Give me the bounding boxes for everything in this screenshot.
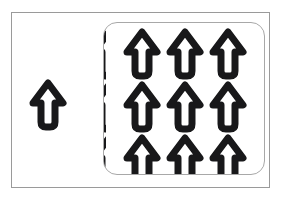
grid-arrow [123, 81, 161, 133]
grouped-arrows-region [103, 22, 265, 175]
grid-arrow [123, 134, 161, 175]
arrow-up-icon [123, 134, 161, 175]
clipped-arrow-tip [103, 134, 106, 175]
figure-canvas [0, 0, 282, 201]
arrow-up-icon [166, 81, 204, 133]
grid-arrow [209, 81, 247, 133]
arrow-up-icon [29, 79, 67, 131]
arrow-up-icon [103, 28, 106, 80]
grid-arrow [166, 81, 204, 133]
arrow-up-icon [209, 28, 247, 80]
arrow-up-icon [123, 28, 161, 80]
clipped-arrow-tip [103, 81, 106, 133]
arrow-up-icon [209, 81, 247, 133]
arrow-up-icon [209, 134, 247, 175]
grid-arrow [123, 28, 161, 80]
arrow-up-icon [103, 134, 106, 175]
arrow-up-icon [123, 81, 161, 133]
standalone-arrow [29, 79, 67, 131]
arrow-up-icon [166, 134, 204, 175]
grid-arrow [166, 28, 204, 80]
arrow-up-icon [103, 81, 106, 133]
grid-arrow [209, 134, 247, 175]
arrow-up-icon [166, 28, 204, 80]
grid-arrow [209, 28, 247, 80]
grid-arrow [166, 134, 204, 175]
clipped-arrow-tip [103, 28, 106, 80]
